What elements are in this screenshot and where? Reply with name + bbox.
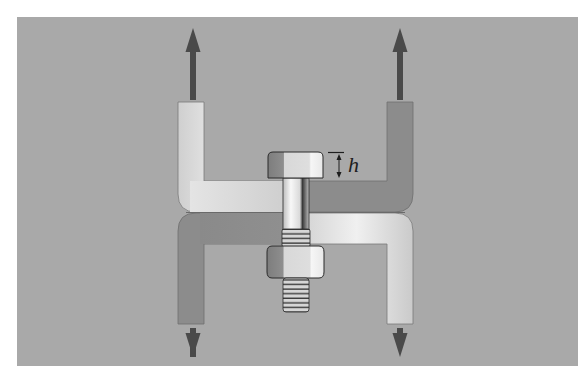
bolt-head: [268, 152, 323, 178]
bolt-thread-lower: [283, 278, 309, 312]
dimension-label-h: h: [348, 152, 359, 177]
bolted-bracket-diagram: h: [0, 0, 586, 379]
bolt-shank: [283, 178, 309, 230]
bolt-thread-upper: [282, 229, 310, 247]
